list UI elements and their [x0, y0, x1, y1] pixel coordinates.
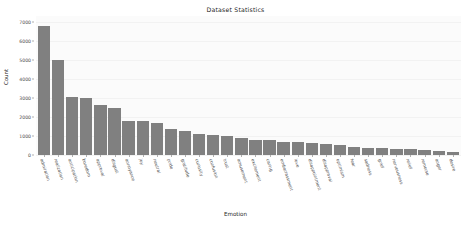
y-axis-tick-label: 5000: [19, 57, 31, 62]
x-axis-tick-mark: [143, 155, 144, 157]
y-axis-tick-mark: [32, 135, 34, 136]
bar-series: [36, 16, 461, 155]
x-axis-tick-label: love: [293, 158, 300, 168]
bar: [94, 105, 106, 155]
x-axis-tick-mark: [368, 155, 369, 157]
x-axis-tick-mark: [354, 155, 355, 157]
x-axis-tick-label: caring: [265, 158, 274, 172]
x-axis-tick-label: relief: [406, 158, 414, 170]
x-axis-label: Emotion: [0, 211, 471, 217]
y-axis-tick-label: 1000: [19, 133, 31, 138]
bar: [249, 140, 261, 155]
bar: [263, 140, 275, 155]
y-axis-label: Count: [3, 55, 9, 99]
x-axis-tick: disappointment: [306, 155, 318, 207]
x-axis-tick: admiration: [38, 155, 50, 207]
x-axis-tick-mark: [86, 155, 87, 157]
x-axis-tick-mark: [270, 155, 271, 157]
x-axis-tick: approval: [94, 155, 106, 207]
x-axis-tick: pride: [165, 155, 177, 207]
y-axis-tick-mark: [32, 97, 34, 98]
x-axis-tick-label: confusion: [208, 158, 219, 179]
plot-area: [36, 16, 461, 155]
x-axis-tick-mark: [58, 155, 59, 157]
x-axis-tick: gratitude: [179, 155, 191, 207]
x-axis-tick-mark: [453, 155, 454, 157]
x-axis-tick-mark: [213, 155, 214, 157]
x-axis-tick-mark: [227, 155, 228, 157]
x-axis-tick: anger: [433, 155, 445, 207]
chart-figure: Dataset Statistics Count 010002000300040…: [0, 0, 471, 231]
x-axis-tick: joy: [137, 155, 149, 207]
x-axis-tick-label: admiration: [39, 158, 51, 181]
x-axis-tick-mark: [241, 155, 242, 157]
bar: [193, 134, 205, 155]
bar: [348, 147, 360, 155]
x-axis-tick-mark: [129, 155, 130, 157]
x-axis-tick: desire: [447, 155, 459, 207]
x-axis-tick-label: curiosity: [194, 158, 204, 177]
bar: [306, 143, 318, 155]
bar: [137, 121, 149, 155]
bar: [334, 145, 346, 155]
x-axis-tick: amusement: [235, 155, 247, 207]
x-axis-tick-mark: [72, 155, 73, 157]
x-axis-tick: grief: [376, 155, 388, 207]
x-axis-tick-label: trust: [223, 158, 231, 169]
x-axis-tick-label: nervousness: [392, 158, 405, 185]
x-axis-tick: anticipation: [66, 155, 78, 207]
y-axis-tick-label: 3000: [19, 95, 31, 100]
x-axis-tick-mark: [396, 155, 397, 157]
x-axis-tick: embarrassment: [277, 155, 289, 207]
bar: [277, 142, 289, 155]
bar: [179, 131, 191, 155]
x-axis-tick-mark: [199, 155, 200, 157]
y-axis-tick-mark: [32, 59, 34, 60]
x-axis-tick-label: approval: [96, 158, 106, 177]
x-axis-tick-mark: [298, 155, 299, 157]
x-axis-tick-label: realization: [53, 158, 65, 180]
x-axis-tick-mark: [44, 155, 45, 157]
x-axis-tick-mark: [340, 155, 341, 157]
x-axis-tick-label: grief: [378, 158, 386, 169]
y-axis-tick-label: 0: [28, 153, 31, 158]
x-axis-tick-label: boredom: [82, 158, 93, 177]
x-axis-tick-label: remorse: [420, 158, 430, 176]
x-axis-tick: boredom: [80, 155, 92, 207]
x-axis-tick-mark: [439, 155, 440, 157]
y-axis-tick-label: 7000: [19, 19, 31, 24]
x-axis-tick: disapproval: [320, 155, 332, 207]
bar: [66, 97, 78, 155]
x-axis-tick-label: joy: [138, 158, 145, 165]
x-axis-tick-label: excitement: [251, 158, 263, 182]
x-axis-tick-mark: [255, 155, 256, 157]
x-axis-tick-mark: [100, 155, 101, 157]
bar: [122, 121, 134, 155]
bar: [221, 136, 233, 155]
x-axis-tick-label: desire: [448, 158, 457, 172]
x-axis-tick-label: fear: [349, 158, 356, 167]
x-axis-tick: fear: [348, 155, 360, 207]
bar: [151, 123, 163, 155]
x-axis-tick-label: anticipation: [67, 158, 79, 183]
y-axis-tick-label: 6000: [19, 38, 31, 43]
x-axis-tick-label: pride: [166, 158, 174, 170]
x-axis-tick-label: disgust: [110, 158, 119, 174]
bar: [52, 60, 64, 155]
x-axis-tick-mark: [410, 155, 411, 157]
x-axis-tick-label: neutral: [152, 158, 161, 174]
x-axis-tick-label: gratitude: [180, 158, 191, 178]
x-axis-tick-label: amusement: [237, 158, 250, 184]
x-axis: admirationrealizationanticipationboredom…: [36, 155, 461, 207]
x-axis-tick-mark: [157, 155, 158, 157]
y-axis-tick-mark: [32, 21, 34, 22]
x-axis-tick: love: [292, 155, 304, 207]
bar: [235, 138, 247, 155]
x-axis-tick: optimism: [334, 155, 346, 207]
x-axis-tick: relief: [404, 155, 416, 207]
x-axis-tick-mark: [171, 155, 172, 157]
y-axis-tick-label: 4000: [19, 76, 31, 81]
x-axis-tick-label: optimism: [335, 158, 346, 178]
x-axis-tick: caring: [263, 155, 275, 207]
x-axis-tick: annoyance: [122, 155, 134, 207]
